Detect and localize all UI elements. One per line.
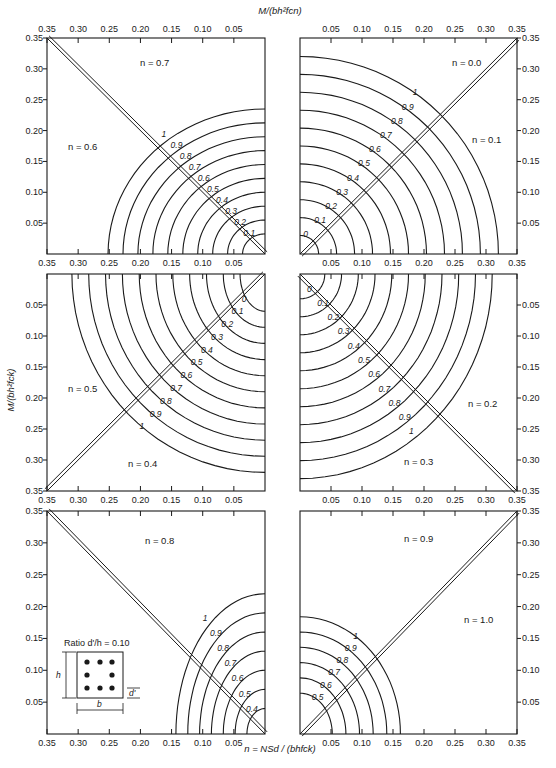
tick-label: 0.25 (101, 258, 119, 268)
curve-label: 0.5 (207, 184, 219, 194)
n-label-0.8: n = 0.8 (145, 535, 174, 546)
left-axis-title: M/(bh²fck) (5, 369, 16, 412)
curve-label: 0.4 (348, 341, 360, 351)
n-label-0.9: n = 0.9 (404, 533, 433, 544)
curve-label: 0.6 (369, 144, 381, 154)
curve-label: 0.7 (189, 162, 201, 172)
curve-label: 1 (161, 129, 166, 139)
tick-label: 0.30 (69, 495, 87, 505)
curve-label: 0.3 (336, 187, 348, 197)
tick-label: 0.20 (132, 495, 150, 505)
curve-label: 0.5 (358, 158, 370, 168)
tick-label: 0.25 (101, 495, 119, 505)
tick-label: 0.35 (522, 506, 540, 516)
tick-label: 0.25 (522, 570, 540, 580)
tick-label: 0.15 (25, 156, 43, 166)
curve-label: 0.9 (210, 628, 222, 638)
tick-label: 0.05 (225, 24, 243, 34)
tick-label: 0.05 (25, 300, 43, 310)
curve-label: 0.9 (402, 102, 414, 112)
curve-label: 0.6 (180, 370, 192, 380)
tick-label: 0.10 (194, 738, 212, 748)
tick-label: 0.25 (101, 24, 119, 34)
curve-label: 0.2 (325, 201, 337, 211)
curve-label: 0.9 (345, 643, 357, 653)
curve-label: 0.4 (216, 195, 228, 205)
tick-label: 0.15 (163, 258, 181, 268)
tick-label: 0.25 (446, 24, 464, 34)
tick-label: 0.10 (353, 738, 371, 748)
curve-label: 1 (413, 87, 418, 97)
curve-0.5 (183, 178, 265, 254)
tick-label: 0.25 (25, 95, 43, 105)
tick-label: 0.20 (522, 126, 540, 136)
curve-label: 0.8 (391, 116, 403, 126)
interaction-diagram-chart: 0.050.050.100.100.150.150.200.200.250.25… (0, 0, 556, 768)
tick-label: 0.25 (522, 95, 540, 105)
tick-label: 0.15 (522, 156, 540, 166)
tick-label: 0.10 (194, 24, 212, 34)
tick-label: 0.30 (477, 495, 495, 505)
tick-label: 0.35 (25, 33, 43, 43)
curve-label: 1 (203, 613, 208, 623)
tick-label: 0.05 (25, 697, 43, 707)
tick-label: 0.10 (25, 331, 43, 341)
tick-label: 0.10 (353, 495, 371, 505)
tick-label: 0.05 (322, 738, 340, 748)
curve-label: 0.2 (327, 312, 339, 322)
tick-label: 0.05 (225, 495, 243, 505)
tick-label: 0.25 (101, 738, 119, 748)
tick-label: 0.35 (38, 738, 56, 748)
tick-label: 0.35 (38, 258, 56, 268)
tick-label: 0.30 (522, 455, 540, 465)
panel-middle-left: 0.050.050.100.100.150.150.200.200.250.25… (25, 272, 265, 505)
tick-label: 0.30 (69, 738, 87, 748)
curve-0.6 (168, 165, 265, 255)
tick-label: 0.20 (132, 258, 150, 268)
n-label-0.6: n = 0.6 (68, 141, 97, 152)
tick-label: 0.10 (522, 665, 540, 675)
tick-label: 0.10 (522, 331, 540, 341)
tick-label: 0.30 (25, 455, 43, 465)
tick-label: 0.15 (163, 495, 181, 505)
tick-label: 0.05 (25, 218, 43, 228)
tick-label: 0.25 (25, 570, 43, 580)
bottom-axis-title: n = NSd / (bhfck) (244, 743, 316, 754)
inset-ratio-label: Ratio d'/h = 0.10 (64, 638, 130, 648)
tick-label: 0.15 (522, 633, 540, 643)
tick-label: 0.15 (384, 24, 402, 34)
tick-label: 0.20 (25, 126, 43, 136)
tick-label: 0.15 (522, 362, 540, 372)
n-label-0.7: n = 0.7 (140, 57, 169, 68)
tick-label: 0.10 (194, 495, 212, 505)
curve-label: 0.7 (378, 384, 390, 394)
curve-label: 0.1 (317, 298, 329, 308)
curve-label: 0.8 (337, 655, 349, 665)
section-inset: Ratio d'/h = 0.10 h b d' (56, 638, 140, 714)
curve-label: 0.3 (211, 332, 223, 342)
n-label-0.5: n = 0.5 (68, 383, 97, 394)
tick-label: 0.25 (522, 424, 540, 434)
curve-label: 0 (307, 284, 312, 294)
tick-label: 0.30 (522, 64, 540, 74)
tick-label: 0.15 (384, 738, 402, 748)
tick-label: 0.35 (38, 495, 56, 505)
curve-label: 0.7 (328, 667, 340, 677)
curve-label: 0.1 (314, 215, 326, 225)
curve-label: 0.9 (399, 412, 411, 422)
tick-label: 0.35 (522, 486, 540, 496)
tick-label: 0.35 (25, 486, 43, 496)
panel-middle-right: 0.050.050.100.100.150.150.200.200.250.25… (298, 274, 540, 505)
curve-label: 0.8 (180, 151, 192, 161)
curve-label: 0.5 (312, 692, 324, 702)
curve-label: 0.1 (232, 306, 244, 316)
curve-label: 0 (303, 229, 308, 239)
tick-label: 0.25 (25, 424, 43, 434)
tick-label: 0.35 (522, 33, 540, 43)
tick-label: 0.30 (477, 258, 495, 268)
tick-label: 0.05 (522, 218, 540, 228)
tick-label: 0.10 (25, 665, 43, 675)
curve-label: 0.5 (358, 355, 370, 365)
inset-h-label: h (56, 670, 61, 680)
curve-label: 0.7 (170, 383, 182, 393)
